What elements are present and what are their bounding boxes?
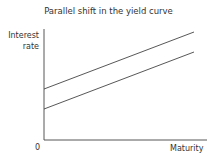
chart-plot <box>0 0 217 163</box>
origin-label: 0 <box>35 143 40 152</box>
x-axis-label: Maturity <box>170 144 203 153</box>
